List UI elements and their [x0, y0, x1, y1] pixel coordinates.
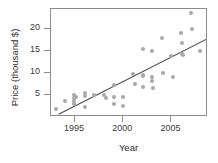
data-point: [150, 79, 154, 83]
data-point: [92, 93, 96, 97]
y-tick-label: 15: [0, 45, 40, 54]
data-point: [72, 102, 76, 106]
y-tick-label: 5: [0, 89, 40, 98]
x-tick-label: 1995: [54, 124, 94, 133]
x-tick-label: 2005: [150, 124, 190, 133]
data-point: [181, 53, 185, 57]
x-tick-mark: [74, 116, 75, 122]
data-point: [150, 49, 154, 53]
data-point: [169, 54, 173, 58]
data-point: [161, 71, 165, 75]
y-axis: 5101520: [0, 0, 50, 163]
data-point: [54, 107, 58, 111]
data-point: [121, 95, 125, 99]
data-point: [190, 27, 194, 31]
data-point: [131, 72, 135, 76]
y-tick-label: 10: [0, 67, 40, 76]
y-axis-label: Price (thousand $): [9, 8, 20, 128]
data-point: [63, 99, 67, 103]
data-point: [112, 102, 116, 106]
data-point: [83, 94, 87, 98]
scatter-plot-figure: 5101520 Price (thousand $) Year 19952000…: [0, 0, 218, 163]
data-point: [151, 86, 155, 90]
y-tick-label: 20: [0, 23, 40, 32]
x-axis-label: Year: [50, 142, 207, 153]
data-point: [74, 95, 78, 99]
data-point: [171, 75, 175, 79]
data-point: [160, 36, 164, 40]
data-point: [189, 11, 193, 15]
plot-frame: [50, 8, 207, 116]
x-tick-mark: [122, 116, 123, 122]
data-point: [121, 104, 125, 108]
data-point: [141, 74, 145, 78]
x-tick-label: 2000: [102, 124, 142, 133]
data-point: [83, 105, 87, 109]
data-point: [180, 41, 184, 45]
data-point: [112, 95, 116, 99]
data-point: [104, 96, 108, 100]
data-point: [133, 82, 137, 86]
plot-area: [51, 9, 206, 115]
data-point: [141, 85, 145, 89]
data-point: [112, 83, 116, 87]
data-point: [179, 31, 183, 35]
data-point: [141, 47, 145, 51]
x-tick-mark: [170, 116, 171, 122]
data-point: [198, 49, 202, 53]
